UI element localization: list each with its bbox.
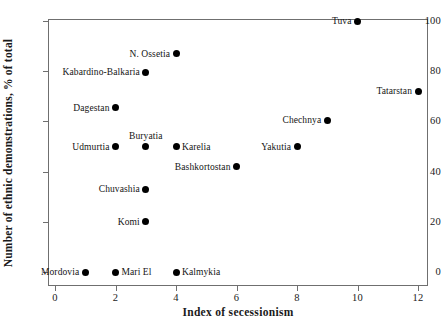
y-axis-title-wrapper: Number of ethnic demonstrations, % of to…	[0, 19, 16, 286]
data-point	[82, 269, 89, 276]
y-tick-mark	[43, 172, 48, 173]
x-tick-label: 12	[403, 292, 433, 303]
data-point-label: Komi	[118, 217, 140, 227]
data-point-label: Dagestan	[73, 103, 109, 113]
scatter-plot-figure: 020406080100 024681012 TuvaN. OssetiaKab…	[0, 0, 441, 329]
x-tick-mark	[418, 286, 419, 291]
data-point-label: Tatarstan	[376, 86, 412, 96]
y-tick-mark	[43, 71, 48, 72]
x-tick-mark	[237, 286, 238, 291]
data-point-label: Tuva	[332, 16, 352, 26]
data-point-label: Buryatia	[129, 131, 163, 141]
y-tick-label: 60	[401, 115, 441, 126]
data-point-label: Mari El	[122, 267, 152, 277]
data-point	[112, 269, 119, 276]
data-point	[173, 50, 180, 57]
data-point-label: Karelia	[182, 142, 211, 152]
x-tick-label: 8	[282, 292, 312, 303]
y-tick-label: 40	[401, 166, 441, 177]
data-point-label: Udmurtia	[72, 142, 109, 152]
y-tick-label: 100	[401, 15, 441, 26]
data-point	[415, 88, 422, 95]
data-point-label: Yakutia	[261, 142, 291, 152]
x-tick-mark	[176, 286, 177, 291]
data-point	[112, 143, 119, 150]
data-point-label: Bashkortostan	[175, 162, 231, 172]
x-tick-label: 0	[40, 292, 70, 303]
y-tick-label: 80	[401, 65, 441, 76]
y-tick-mark	[43, 121, 48, 122]
y-axis-title: Number of ethnic demonstrations, % of to…	[2, 38, 14, 266]
y-tick-mark	[43, 222, 48, 223]
x-tick-mark	[55, 286, 56, 291]
data-point-label: N. Ossetia	[129, 49, 170, 59]
data-point	[324, 117, 331, 124]
data-point-label: Chuvashia	[99, 184, 140, 194]
y-tick-label: 0	[401, 266, 441, 277]
data-point-label: Chechnya	[282, 115, 321, 125]
plot-area	[48, 19, 428, 286]
data-point	[294, 143, 301, 150]
x-tick-mark	[116, 286, 117, 291]
y-tick-mark	[43, 21, 48, 22]
data-point-label: Kabardino-Balkaria	[63, 67, 140, 77]
x-tick-label: 4	[161, 292, 191, 303]
x-tick-label: 6	[222, 292, 252, 303]
data-point-label: Kalmykia	[182, 267, 220, 277]
x-tick-mark	[297, 286, 298, 291]
x-tick-mark	[358, 286, 359, 291]
data-point	[142, 186, 149, 193]
x-tick-label: 10	[343, 292, 373, 303]
data-point	[173, 143, 180, 150]
data-point	[173, 269, 180, 276]
data-point	[354, 18, 361, 25]
x-axis-title: Index of secessionism	[48, 306, 428, 318]
y-tick-label: 20	[401, 216, 441, 227]
x-tick-label: 2	[101, 292, 131, 303]
data-point-label: Mordovia	[41, 267, 79, 277]
